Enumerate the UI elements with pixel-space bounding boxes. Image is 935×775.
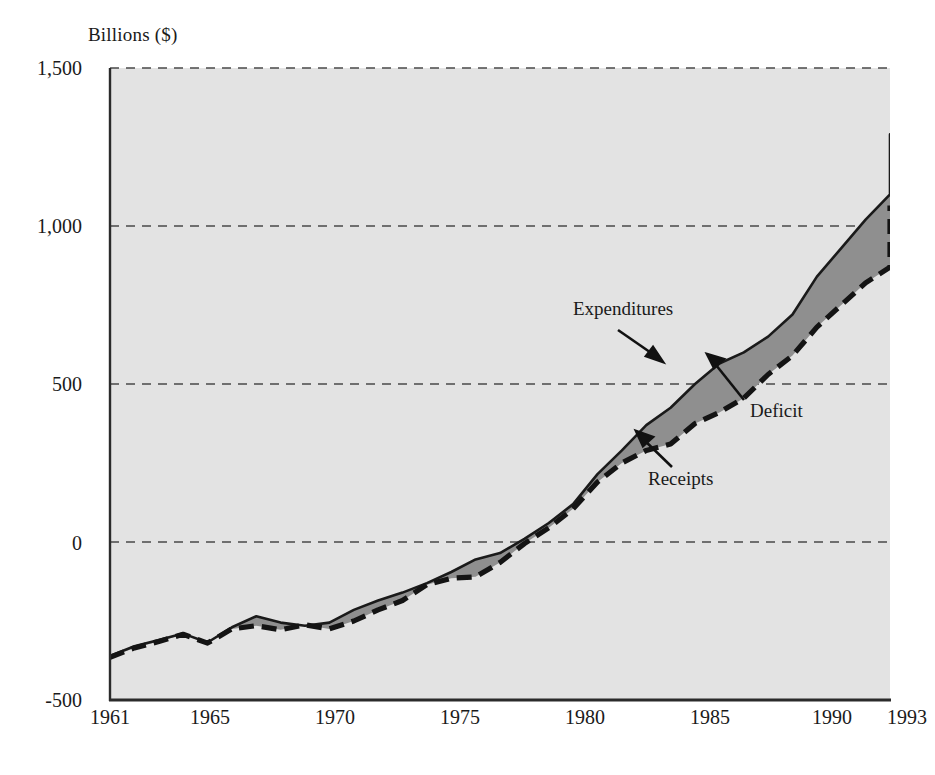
annotation-receipts: Receipts xyxy=(648,468,713,490)
annotation-deficit: Deficit xyxy=(750,400,803,422)
plot-area xyxy=(0,0,935,775)
annotation-expenditures: Expenditures xyxy=(573,298,673,320)
figure-container: Billions ($) 1,500 1,000 500 0 -500 1961… xyxy=(0,0,935,775)
